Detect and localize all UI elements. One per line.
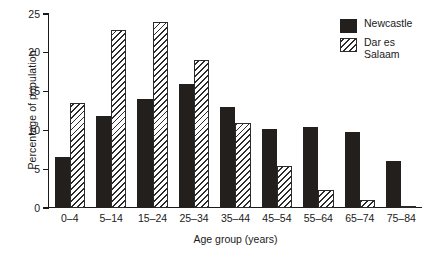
bar-group <box>96 14 126 208</box>
y-tick-label: 20 <box>16 47 40 57</box>
bar-group <box>137 14 167 208</box>
x-tick-label: 5–14 <box>90 212 131 224</box>
bar-newcastle[interactable] <box>303 127 318 208</box>
x-tick-label: 55–64 <box>298 212 339 224</box>
bar-newcastle[interactable] <box>137 99 152 208</box>
bar-newcastle[interactable] <box>55 157 70 208</box>
bar-group <box>179 14 209 208</box>
x-tick-label: 0–4 <box>49 212 90 224</box>
bar-newcastle[interactable] <box>96 116 111 208</box>
legend-item[interactable]: Dar es Salaam <box>340 37 436 60</box>
x-tick-label: 25–34 <box>173 212 214 224</box>
bar-group <box>303 14 333 208</box>
bar-dar-es-salaam[interactable] <box>277 166 292 208</box>
legend-label: Dar es Salaam <box>364 37 400 60</box>
bar-dar-es-salaam[interactable] <box>318 190 333 208</box>
legend-label: Newcastle <box>364 18 412 30</box>
bar-dar-es-salaam[interactable] <box>401 206 416 208</box>
y-tick-label: 10 <box>16 125 40 135</box>
bar-dar-es-salaam[interactable] <box>360 200 375 208</box>
x-tick-label: 45–54 <box>256 212 297 224</box>
figure-container: Percentage of population 0510152025 0–45… <box>0 0 436 263</box>
y-tick-label: 0 <box>16 203 40 213</box>
y-tick-label: 5 <box>16 164 40 174</box>
legend-item[interactable]: Newcastle <box>340 18 436 33</box>
bar-newcastle[interactable] <box>345 132 360 208</box>
bar-dar-es-salaam[interactable] <box>111 30 126 208</box>
bar-group <box>220 14 250 208</box>
x-tick-label: 35–44 <box>215 212 256 224</box>
x-tick-label: 65–74 <box>339 212 380 224</box>
y-axis-title: Percentage of population <box>26 15 38 205</box>
y-tick-label: 15 <box>16 86 40 96</box>
legend-swatch-newcastle <box>340 19 357 33</box>
bar-newcastle[interactable] <box>386 161 401 208</box>
bar-newcastle[interactable] <box>179 84 194 208</box>
bar-group <box>55 14 85 208</box>
chart-legend: NewcastleDar es Salaam <box>340 18 436 64</box>
bar-newcastle[interactable] <box>262 129 277 208</box>
x-tick-label: 75–84 <box>381 212 422 224</box>
bar-group <box>262 14 292 208</box>
bar-dar-es-salaam[interactable] <box>153 22 168 208</box>
bar-dar-es-salaam[interactable] <box>235 123 250 208</box>
bar-dar-es-salaam[interactable] <box>194 60 209 208</box>
x-tick-label: 15–24 <box>132 212 173 224</box>
legend-swatch-dar-es-salaam <box>340 38 357 52</box>
bar-newcastle[interactable] <box>220 107 235 208</box>
bar-dar-es-salaam[interactable] <box>70 103 85 208</box>
x-axis-title: Age group (years) <box>49 233 422 245</box>
y-tick-label: 25 <box>16 9 40 19</box>
